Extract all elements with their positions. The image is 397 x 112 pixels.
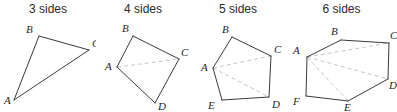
diagonal-A-E xyxy=(307,57,348,101)
vertex-label-e: E xyxy=(207,99,215,111)
vertex-label-e: E xyxy=(343,101,351,112)
vertex-label-b: B xyxy=(122,22,129,34)
edge-A-B xyxy=(213,37,232,68)
edge-E-F xyxy=(306,96,348,101)
vertex-label-b: B xyxy=(222,23,229,35)
vertex-label-f: F xyxy=(292,95,300,107)
vertex-label-b: B xyxy=(331,25,338,37)
diagonal-A-D xyxy=(307,57,388,79)
vertex-label-c: C xyxy=(274,43,282,55)
edge-D-E xyxy=(222,97,269,100)
triangle-drawing: BCA xyxy=(0,0,96,112)
edge-F-A xyxy=(306,57,307,96)
hexagon-drawing: BCDEFA xyxy=(286,0,397,112)
vertex-label-c: C xyxy=(181,46,189,58)
vertex-label-a: A xyxy=(200,61,208,73)
panel-5-sides: 5 sidesBCDEA xyxy=(190,0,286,112)
edge-B-C xyxy=(232,37,271,56)
vertex-label-d: D xyxy=(271,98,280,110)
edge-C-A xyxy=(14,50,89,100)
edge-B-C xyxy=(341,40,389,43)
edge-C-D xyxy=(269,56,271,97)
vertex-label-d: D xyxy=(157,100,166,112)
vertex-label-a: A xyxy=(292,44,300,56)
vertex-label-b: B xyxy=(26,23,33,35)
edge-A-B xyxy=(117,36,133,67)
edge-E-A xyxy=(213,68,222,100)
vertex-label-a: A xyxy=(3,94,11,106)
panel-3-sides: 3 sidesBCA xyxy=(0,0,96,112)
edge-B-C xyxy=(133,36,179,59)
edge-D-E xyxy=(348,79,388,101)
edge-A-B xyxy=(14,36,39,100)
pentagon-drawing: BCDEA xyxy=(190,0,286,112)
edge-C-D xyxy=(388,43,389,79)
diagonal-A-C xyxy=(307,43,389,57)
panel-6-sides: 6 sidesBCDEFA xyxy=(286,0,397,112)
vertex-label-a: A xyxy=(104,60,112,72)
diagonal-A-C xyxy=(117,59,179,67)
panel-4-sides: 4 sidesBCDA xyxy=(96,0,190,112)
edge-B-C xyxy=(39,36,89,50)
vertex-label-c: C xyxy=(390,29,397,41)
diagonal-A-C xyxy=(213,56,271,68)
polygon-sides-figure: 3 sidesBCA4 sidesBCDA5 sidesBCDEA6 sides… xyxy=(0,0,397,112)
quadrilateral-drawing: BCDA xyxy=(96,0,190,112)
edge-C-D xyxy=(155,59,179,103)
diagonal-A-D xyxy=(213,68,269,97)
vertex-label-d: D xyxy=(388,79,397,91)
edge-D-A xyxy=(117,67,155,103)
